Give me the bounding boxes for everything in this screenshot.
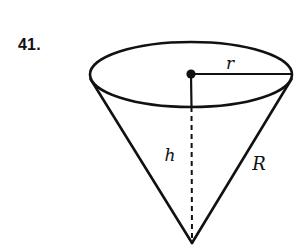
height-axis-dashed-line <box>192 107 193 241</box>
radius-label: r <box>226 53 235 73</box>
cone-diagram-svg: r h R <box>0 0 306 251</box>
cone-figure: 41. r h R <box>0 0 306 251</box>
slant-height-label: R <box>251 153 266 174</box>
height-axis-solid-line <box>191 74 192 108</box>
height-label: h <box>165 145 176 165</box>
center-point-dot <box>186 69 195 78</box>
